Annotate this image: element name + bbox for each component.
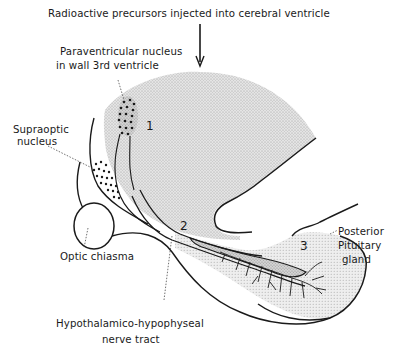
supraoptic-label-line1: Supraoptic — [13, 124, 69, 136]
diagram-drawing — [0, 0, 393, 354]
posterior-pituitary-label-line1: Posterior — [338, 226, 384, 238]
optic-chiasma-label: Optic chiasma — [60, 251, 134, 263]
tract-label-line2: nerve tract — [102, 334, 160, 346]
third-ventricle-region — [104, 72, 316, 240]
marker-3: 3 — [300, 240, 308, 252]
posterior-pituitary-label-line3: gland — [342, 254, 371, 266]
paraventricular-label-line2: in wall 3rd ventricle — [56, 60, 159, 72]
marker-1: 1 — [146, 120, 154, 132]
posterior-pituitary-label-line2: Pituitary — [338, 240, 381, 252]
paraventricular-label-line1: Paraventricular nucleus — [60, 46, 182, 58]
tract-label-line1: Hypothalamico-hypophyseal — [56, 318, 204, 330]
injection-arrow-icon — [196, 24, 204, 66]
neurosecretion-diagram: Radioactive precursors injected into cer… — [0, 0, 393, 354]
supraoptic-label-line2: nucleus — [17, 136, 57, 148]
marker-2: 2 — [180, 220, 188, 232]
optic-chiasma-shape — [74, 203, 114, 249]
injection-label: Radioactive precursors injected into cer… — [48, 8, 330, 20]
